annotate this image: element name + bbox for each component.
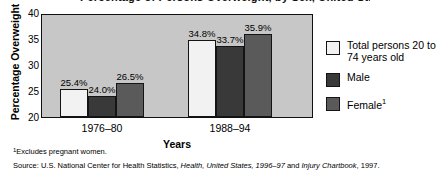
legend-item-male[interactable]: Male: [326, 72, 438, 87]
legend-label-total-line2: 74 years old: [347, 51, 404, 63]
chart-figure: Percentage of Persons Overweight, by Sex…: [0, 0, 440, 175]
chart-legend: Total persons 20 to74 years old Male Fem…: [326, 40, 438, 120]
y-tick-20: 20: [19, 113, 39, 123]
legend-swatch-female-icon: [326, 97, 340, 111]
footnote-text: Excludes pregnant women.: [16, 147, 106, 156]
y-tick-30: 30: [19, 61, 39, 71]
y-tick-35: 35: [19, 35, 39, 45]
legend-item-total[interactable]: Total persons 20 to74 years old: [326, 40, 438, 63]
footnote: 1Excludes pregnant women.: [13, 146, 107, 156]
bar-male-1988-94[interactable]: [216, 46, 244, 117]
chart-title: Percentage of Persons Overweight, by Sex…: [80, 0, 370, 3]
y-tick-40: 40: [19, 9, 39, 19]
source-prefix: Source: U.S. National Center for Health …: [13, 161, 181, 170]
legend-label-male: Male: [347, 72, 438, 84]
bar-male-1976-80[interactable]: [88, 96, 116, 117]
source-suffix: , 1997.: [357, 161, 380, 170]
legend-label-female: Female1: [347, 96, 438, 111]
legend-item-female[interactable]: Female1: [326, 96, 438, 111]
legend-label-female-text: Female: [347, 99, 382, 111]
x-group-label-1988-94: 1988–94: [187, 122, 273, 134]
legend-swatch-total-icon: [326, 41, 340, 55]
legend-swatch-male-icon: [326, 73, 340, 87]
bar-value-female-1976-80: 26.5%: [107, 72, 153, 82]
legend-label-female-footnote-marker: 1: [382, 97, 386, 106]
legend-label-total-line1: Total persons 20 to: [347, 39, 436, 51]
bar-value-female-1988-94: 35.9%: [235, 23, 281, 33]
source-title-2: Injury Chartbook: [302, 161, 357, 170]
plot-area: 25.4% 24.0% 26.5% 34.8% 33.7% 35.9%: [41, 14, 313, 118]
bar-total-1988-94[interactable]: [188, 40, 216, 117]
bar-value-male-1988-94: 33.7%: [207, 35, 253, 45]
bar-female-1988-94[interactable]: [244, 34, 272, 117]
source-note: Source: U.S. National Center for Health …: [13, 161, 379, 170]
legend-label-total: Total persons 20 to74 years old: [347, 40, 438, 63]
y-tick-25: 25: [19, 87, 39, 97]
source-title-1: Health, United States, 1996–97: [181, 161, 285, 170]
bar-value-male-1976-80: 24.0%: [79, 85, 125, 95]
x-group-label-1976-80: 1976–80: [59, 122, 145, 134]
y-axis-tick-labels: 40 35 30 25 20: [17, 14, 39, 118]
source-mid: and: [285, 161, 302, 170]
